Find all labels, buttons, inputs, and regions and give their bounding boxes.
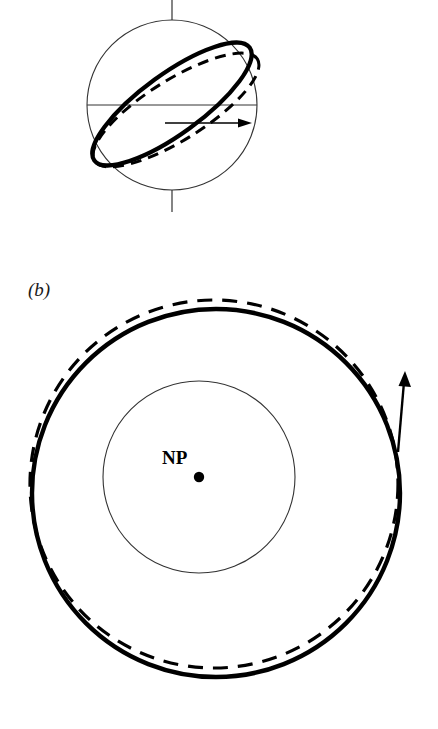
- panel-b-label: (b): [28, 279, 50, 301]
- panel-a-group: [77, 0, 274, 212]
- panel-b-group: [30, 300, 411, 677]
- orbit-circle-dashed: [30, 300, 398, 668]
- orbit-circle-solid: [32, 309, 400, 677]
- north-pole-label: NP: [162, 447, 187, 469]
- figure-container: (b) NP: [0, 0, 438, 729]
- motion-arrow-shaft: [398, 382, 404, 452]
- motion-arrow-panel-b: [398, 371, 411, 452]
- motion-arrow-head: [399, 371, 412, 387]
- figure-drawing: [0, 0, 438, 729]
- north-pole-dot: [194, 472, 204, 482]
